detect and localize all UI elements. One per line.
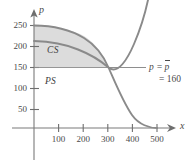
price-annotation-pbar: p — [165, 61, 170, 73]
x-axis-label: x — [180, 120, 184, 131]
consumer-surplus-label: CS — [47, 45, 59, 55]
x-tick-label-300: 300 — [94, 134, 121, 144]
y-tick-label-50: 50 — [3, 104, 27, 114]
y-tick-label-150: 150 — [3, 62, 27, 72]
y-axis-label: p — [39, 4, 44, 15]
producer-surplus-label: PS — [45, 76, 56, 86]
x-tick-label-400: 400 — [119, 134, 146, 144]
x-tick-label-100: 100 — [45, 134, 72, 144]
x-tick-label-200: 200 — [70, 134, 97, 144]
price-annotation-lhs: p = — [149, 62, 163, 72]
y-tick-label-100: 100 — [3, 83, 27, 93]
price-annotation-value: = 160 — [159, 73, 181, 85]
y-tick-label-250: 250 — [3, 20, 27, 30]
supply-demand-chart: p x 250 200 150 100 50 100 200 300 400 5… — [0, 0, 194, 166]
equilibrium-price-annotation: p =p = 160 — [149, 61, 181, 85]
x-tick-label-500: 500 — [144, 134, 171, 144]
y-tick-label-200: 200 — [3, 41, 27, 51]
